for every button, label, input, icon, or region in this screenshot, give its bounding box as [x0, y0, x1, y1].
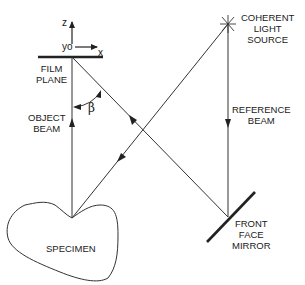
- specimen-label: SPECIMEN: [46, 243, 96, 254]
- y-axis-label: yo: [62, 42, 73, 52]
- reference-beam-label: REFERENCE BEAM: [232, 104, 291, 126]
- object-beam-label: OBJECT BEAM: [28, 112, 65, 134]
- film-plane-label: FILM PLANE: [36, 63, 67, 85]
- reflected-reference-line: [72, 57, 228, 217]
- x-axis-label: x: [98, 48, 103, 58]
- specimen-shape: [7, 202, 118, 281]
- object-beam-arrow-icon: [69, 118, 75, 127]
- light-source-star-icon: [220, 15, 236, 33]
- angle-arrow-left-icon: [73, 104, 81, 110]
- angle-beta-label: β: [88, 101, 95, 115]
- illumination-line: [72, 24, 228, 218]
- front-face-mirror-label: FRONT FACE MIRROR: [232, 218, 271, 251]
- reference-beam-arrow-icon: [225, 119, 231, 128]
- reflected-arrow-icon: [129, 115, 137, 125]
- coherent-light-source-label: COHERENT LIGHT SOURCE: [241, 12, 294, 45]
- z-axis-label: z: [62, 18, 67, 28]
- illumination-arrow-icon: [117, 153, 126, 162]
- angle-arrow-right-icon: [96, 90, 101, 98]
